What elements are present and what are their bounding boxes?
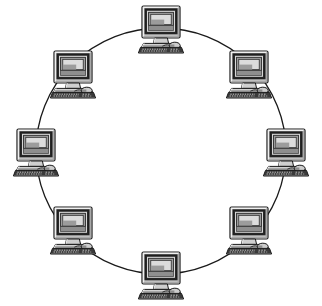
computer-node-1[interactable]: Computer 1 — [138, 6, 183, 53]
topology-canvas: Computer 1Computer 2Computer 3Computer 4… — [0, 0, 322, 306]
computer-node-7[interactable]: Computer 7 — [13, 129, 58, 176]
computer-node-2[interactable]: Computer 2 — [226, 51, 271, 98]
desktop-computer-icon — [226, 51, 271, 98]
desktop-computer-icon — [13, 129, 58, 176]
desktop-computer-icon — [50, 207, 95, 254]
desktop-computer-icon — [138, 6, 183, 53]
desktop-computer-icon — [263, 129, 308, 176]
device-layer: Computer 1Computer 2Computer 3Computer 4… — [13, 6, 308, 299]
computer-node-6[interactable]: Computer 6 — [50, 207, 95, 254]
desktop-computer-icon — [226, 207, 271, 254]
computer-node-3[interactable]: Computer 3 — [263, 129, 308, 176]
ring-topology-diagram: Computer 1Computer 2Computer 3Computer 4… — [0, 0, 322, 306]
desktop-computer-icon — [50, 51, 95, 98]
computer-node-5[interactable]: Computer 5 — [138, 252, 183, 299]
desktop-computer-icon — [138, 252, 183, 299]
computer-node-4[interactable]: Computer 4 — [226, 207, 271, 254]
computer-node-8[interactable]: Computer 8 — [50, 51, 95, 98]
